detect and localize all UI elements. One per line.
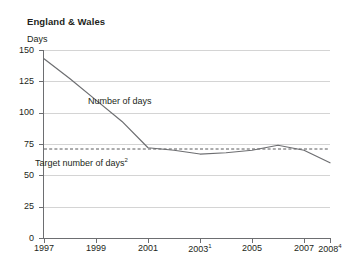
number-of-days-line: [44, 59, 330, 163]
series-annotation-label: Number of days: [88, 96, 152, 106]
target-annotation-label: Target number of days2: [35, 157, 128, 168]
target-annotation-text: Target number of days: [35, 158, 125, 168]
x-tick-superscript: 4: [338, 243, 341, 249]
target-annotation-superscript: 2: [125, 157, 128, 163]
